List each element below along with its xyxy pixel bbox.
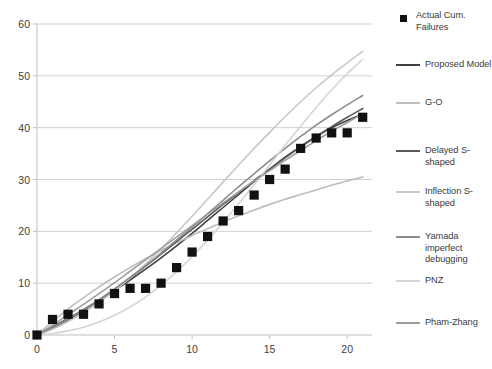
data-point-marker: [187, 247, 196, 256]
data-point-marker: [63, 310, 72, 319]
data-point-marker: [79, 310, 88, 319]
legend-item[interactable]: Pham-Zhang: [396, 317, 478, 329]
data-point-marker: [94, 299, 103, 308]
legend-line-swatch: [396, 150, 420, 152]
legend-line-icon: [396, 102, 420, 104]
model-curve: [37, 51, 363, 335]
x-tick-label: 0: [34, 343, 40, 355]
y-tick-label: 40: [18, 122, 30, 134]
chart-legend: Actual Cum. FailuresProposed ModelG-ODel…: [396, 0, 492, 369]
data-point-marker: [110, 289, 119, 298]
legend-square-marker-icon: [400, 15, 407, 22]
legend-item[interactable]: Proposed Model: [396, 59, 491, 71]
data-point-marker: [281, 165, 290, 174]
legend-line-icon: [396, 280, 420, 282]
legend-marker-swatch: [396, 15, 411, 22]
legend-line-icon: [396, 64, 420, 66]
data-point-marker: [312, 133, 321, 142]
data-point-marker: [156, 279, 165, 288]
data-point-marker: [125, 284, 134, 293]
legend-item[interactable]: Actual Cum. Failures: [396, 10, 466, 33]
legend-item[interactable]: Inflection S- shaped: [396, 186, 473, 209]
x-tick-label: 10: [186, 343, 198, 355]
data-point-marker: [219, 216, 228, 225]
legend-item[interactable]: PNZ: [396, 275, 443, 287]
data-point-marker: [327, 128, 336, 137]
y-tick-label: 60: [18, 18, 30, 30]
legend-line-icon: [396, 191, 420, 193]
x-tick-label: 5: [112, 343, 118, 355]
chart-root: 605040302010005101520 Actual Cum. Failur…: [0, 0, 492, 369]
data-point-marker: [203, 232, 212, 241]
model-curve: [37, 59, 363, 335]
legend-label: Delayed S-shaped: [425, 145, 492, 168]
y-tick-label: 20: [18, 225, 30, 237]
legend-item[interactable]: G-O: [396, 97, 442, 109]
legend-label: Pham-Zhang: [425, 317, 478, 329]
legend-label: Actual Cum. Failures: [416, 10, 466, 33]
y-tick-label: 30: [18, 174, 30, 186]
legend-line-icon: [396, 150, 420, 152]
y-tick-label: 0: [24, 329, 30, 341]
data-point-marker: [296, 144, 305, 153]
legend-line-icon: [396, 322, 420, 324]
legend-line-swatch: [396, 191, 420, 193]
legend-line-swatch: [396, 236, 420, 238]
x-tick-label: 20: [341, 343, 353, 355]
data-point-marker: [250, 190, 259, 199]
legend-item[interactable]: Yamada imperfect debugging: [396, 231, 492, 266]
y-tick-label: 10: [18, 277, 30, 289]
legend-label: G-O: [425, 97, 442, 109]
data-point-marker: [32, 330, 41, 339]
legend-line-icon: [396, 236, 420, 238]
legend-line-swatch: [396, 322, 420, 324]
data-point-marker: [358, 113, 367, 122]
data-point-marker: [48, 315, 57, 324]
legend-item[interactable]: Delayed S-shaped: [396, 145, 492, 168]
x-tick-label: 15: [264, 343, 276, 355]
model-curve: [37, 96, 363, 335]
legend-label: PNZ: [425, 275, 443, 287]
legend-line-swatch: [396, 64, 420, 66]
legend-line-swatch: [396, 280, 420, 282]
data-point-marker: [265, 175, 274, 184]
y-tick-label: 50: [18, 70, 30, 82]
legend-label: Inflection S- shaped: [425, 186, 473, 209]
data-point-marker: [172, 263, 181, 272]
data-point-marker: [141, 284, 150, 293]
data-point-marker: [234, 206, 243, 215]
legend-label: Proposed Model: [425, 59, 491, 71]
data-point-marker: [343, 128, 352, 137]
legend-line-swatch: [396, 102, 420, 104]
legend-label: Yamada imperfect debugging: [425, 231, 492, 266]
model-curve: [37, 114, 363, 335]
